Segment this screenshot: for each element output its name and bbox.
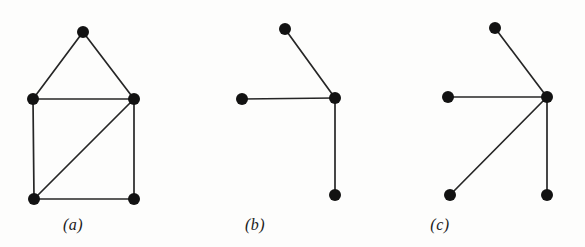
graph-edge-c-top-c-center: [495, 28, 547, 97]
caption-panel-b: (b): [245, 216, 265, 234]
edges-layer: [33, 28, 547, 199]
graph-edge-a-apex-a-right-middle: [83, 32, 134, 99]
graph-node-a-left-middle: [27, 93, 39, 105]
graph-node-c-top: [489, 22, 501, 34]
graph-node-c-center: [541, 91, 553, 103]
graph-node-b-top: [279, 23, 291, 35]
graph-node-c-left: [442, 91, 454, 103]
caption-panel-a: (a): [63, 216, 83, 234]
graph-edge-c-bottom-left-c-center: [450, 97, 547, 195]
graph-edge-b-top-b-center: [285, 29, 335, 98]
graph-node-a-right-middle: [128, 93, 140, 105]
graph-edge-b-left-b-center: [242, 98, 335, 99]
graph-canvas: [0, 0, 585, 247]
graph-edge-a-left-middle-a-left-bottom: [33, 99, 34, 199]
graph-figure: (a)(b)(c): [0, 0, 585, 247]
graph-node-c-bottom-left: [444, 189, 456, 201]
graph-node-c-bottom-right: [541, 189, 553, 201]
graph-node-a-apex: [77, 26, 89, 38]
graph-node-a-right-bottom: [128, 193, 140, 205]
graph-edge-a-apex-a-left-middle: [33, 32, 83, 99]
graph-node-a-left-bottom: [28, 193, 40, 205]
graph-node-b-left: [236, 93, 248, 105]
caption-panel-c: (c): [430, 216, 449, 234]
graph-node-b-center: [329, 92, 341, 104]
graph-edge-a-left-bottom-a-right-middle: [34, 99, 134, 199]
graph-node-b-bottom: [329, 189, 341, 201]
nodes-layer: [27, 22, 553, 205]
